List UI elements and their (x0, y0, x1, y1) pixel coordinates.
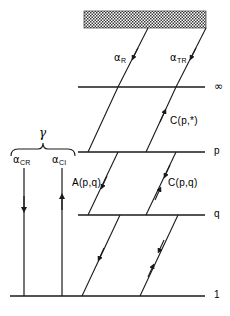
alpha-subscript-R: R (121, 57, 126, 64)
level-label-q: q (214, 209, 220, 219)
rate-label-alpha-CR: αCR (13, 155, 30, 165)
level-label-p: p (214, 146, 220, 156)
arrow-q-one-left-down (99, 248, 104, 259)
alpha-subscript-CR: CR (20, 159, 31, 166)
alpha-subscript-TR: TR (177, 57, 187, 64)
alpha-subscript-CI: CI (59, 159, 66, 166)
arrow-a-p-q (102, 176, 107, 187)
alpha-symbol-TR: α (170, 52, 177, 63)
alpha-symbol-CR: α (13, 154, 20, 165)
alpha-symbol-R: α (114, 52, 121, 63)
transition-inf-p-left (88, 87, 118, 152)
collision-label-c-p-q: C(p,q) (168, 178, 198, 188)
rate-label-alpha-CI: αCI (52, 155, 66, 165)
level-label-one: 1 (214, 290, 220, 300)
arrow-alpha-TR (191, 48, 196, 58)
collision-label-a-p-q: A(p,q) (72, 178, 101, 188)
alpha-symbol-CI: α (52, 154, 59, 165)
collision-label-c-p-star: C(p,*) (170, 116, 198, 126)
arrow-q-one-right-up (148, 266, 153, 277)
rate-label-alpha-TR: αTR (170, 53, 187, 63)
arrow-c-p-star (160, 111, 165, 122)
arrow-alpha-R (133, 48, 138, 58)
level-label-infinity: ∞ (214, 81, 223, 92)
transition-q-one-right (140, 215, 178, 296)
arrow-c-p-q-down (165, 165, 170, 176)
continuum-block (84, 11, 206, 28)
level-diagram: ∞ p q 1 αR αTR C(p,*) A(p,q) C(p,q) γ αC… (0, 0, 230, 316)
rate-label-alpha-R: αR (114, 53, 126, 63)
gamma-label: γ (39, 127, 46, 139)
diagram-canvas (0, 0, 230, 316)
